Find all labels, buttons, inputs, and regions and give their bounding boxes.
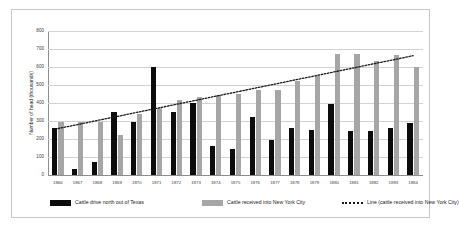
bar (250, 117, 255, 175)
y-axis-tick-label: 800 (36, 29, 48, 34)
bar (315, 76, 320, 175)
y-axis-title: Number of head (thousands) (25, 31, 37, 175)
bar (256, 90, 261, 175)
x-axis-tick-label: 1876 (250, 178, 260, 187)
bar-group (285, 31, 305, 175)
bar-group (344, 31, 364, 175)
bar (295, 81, 300, 175)
x-axis-tick-label: 1878 (290, 178, 300, 187)
x-axis-tick-label: 1866 (53, 178, 63, 187)
bar (269, 140, 274, 175)
bar-group (87, 31, 107, 175)
bar-group (68, 31, 88, 175)
bar (137, 114, 142, 175)
bar (414, 67, 419, 175)
bar (348, 131, 353, 175)
bar-group (403, 31, 423, 175)
x-axis-tick-label: 1867 (73, 178, 83, 187)
bar-group (324, 31, 344, 175)
bar (407, 123, 412, 175)
y-axis-tick-label: 400 (36, 101, 48, 106)
x-axis-tick-label: 1869 (112, 178, 122, 187)
bar (328, 104, 333, 175)
bar (289, 128, 294, 175)
bar (335, 54, 340, 175)
bar (309, 130, 314, 175)
x-axis-tick-label: 1884 (408, 178, 418, 187)
bar (151, 67, 156, 175)
bar (354, 54, 359, 175)
bar (210, 146, 215, 175)
gridline (48, 175, 423, 176)
legend-swatch-icon (202, 200, 223, 206)
legend-swatch-icon (50, 200, 71, 206)
x-axis-tick-label: 1872 (172, 178, 182, 187)
bar-group (186, 31, 206, 175)
bar-group (127, 31, 147, 175)
bar (72, 169, 77, 175)
y-axis-tick-label: 600 (36, 65, 48, 70)
bar (131, 122, 136, 175)
x-axis-tick-label: 1877 (270, 178, 280, 187)
x-axis-tick-label: 1873 (191, 178, 201, 187)
y-axis-tick-label: 300 (36, 119, 48, 124)
bars-layer (48, 31, 423, 175)
bar-group (166, 31, 186, 175)
bar (275, 90, 280, 175)
bar (52, 128, 57, 175)
bar (98, 122, 103, 175)
bar (58, 122, 63, 175)
y-axis-tick-label: 100 (36, 155, 48, 160)
bar (230, 149, 235, 175)
legend-item[interactable]: Cattle drive north out of Texas (50, 196, 144, 210)
bar-group (384, 31, 404, 175)
x-axis-tick-label: 1882 (369, 178, 379, 187)
x-axis-tick-label: 1874 (211, 178, 221, 187)
bar-group (245, 31, 265, 175)
y-axis-tick-label: 700 (36, 47, 48, 52)
bar (177, 100, 182, 175)
legend-item[interactable]: Cattle received into New York City (202, 196, 305, 210)
bar-group (107, 31, 127, 175)
x-axis-tick-label: 1883 (389, 178, 399, 187)
legend-item[interactable]: Line (cattle received into New York City… (342, 196, 459, 210)
legend-label: Cattle received into New York City (227, 200, 305, 205)
bar-group (226, 31, 246, 175)
bar-group (265, 31, 285, 175)
bar-group (364, 31, 384, 175)
bar (216, 95, 221, 175)
legend-label: Cattle drive north out of Texas (75, 200, 144, 205)
bar (236, 94, 241, 175)
x-axis-tick-label: 1881 (349, 178, 359, 187)
bar (111, 112, 116, 175)
bar (197, 97, 202, 175)
bar (368, 131, 373, 175)
bar (394, 55, 399, 175)
bar (78, 122, 83, 175)
bar-group (48, 31, 68, 175)
legend-label: Line (cattle received into New York City… (367, 200, 459, 205)
x-axis-tick-label: 1871 (152, 178, 162, 187)
chart-frame: Number of head (thousands) 0100200300400… (11, 9, 430, 218)
plot-area: 0100200300400500600700800 (48, 31, 423, 175)
chart-legend: Cattle drive north out of TexasCattle re… (50, 196, 420, 210)
x-axis-tick-label: 1879 (310, 178, 320, 187)
bar (374, 61, 379, 175)
bar (171, 112, 176, 175)
bar (92, 162, 97, 176)
bar-group (206, 31, 226, 175)
x-axis-tick-label: 1875 (231, 178, 241, 187)
x-axis-tick-labels: 1866186718681869187018711872187318741875… (48, 178, 423, 187)
bar (388, 128, 393, 175)
bar (157, 108, 162, 176)
x-axis-tick-label: 1868 (93, 178, 103, 187)
y-axis-tick-label: 500 (36, 83, 48, 88)
legend-swatch-icon (342, 202, 363, 204)
bar-group (147, 31, 167, 175)
bar-group (305, 31, 325, 175)
y-axis-tick-label: 200 (36, 137, 48, 142)
x-axis-tick-label: 1870 (132, 178, 142, 187)
bar (190, 103, 195, 175)
x-axis-tick-label: 1880 (329, 178, 339, 187)
bar (118, 135, 123, 176)
